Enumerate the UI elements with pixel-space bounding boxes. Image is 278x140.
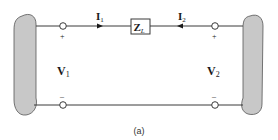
terminal-bottom-right — [212, 102, 219, 109]
current-arrow-right-icon — [97, 24, 103, 29]
current-arrow-left-icon — [177, 24, 183, 29]
voltage-label-v2: V2 — [207, 64, 220, 79]
current-label-i1: I1 — [96, 10, 104, 24]
figure-caption: (a) — [134, 126, 145, 136]
terminal-top-left — [60, 23, 67, 30]
voltage-label-v1: V1 — [57, 64, 70, 79]
right-network-blob — [242, 15, 263, 114]
current-label-i2: I2 — [178, 10, 186, 24]
left-network-blob — [14, 14, 37, 115]
terminal-bottom-left — [60, 102, 67, 109]
circuit-diagram: ZL I1 I2 + + – – V1 V2 (a) — [0, 0, 278, 140]
polarity-minus-right: – — [211, 92, 217, 101]
polarity-plus-left: + — [60, 32, 65, 41]
terminal-top-right — [212, 23, 219, 30]
polarity-minus-left: – — [59, 92, 65, 101]
polarity-plus-right: + — [212, 32, 217, 41]
